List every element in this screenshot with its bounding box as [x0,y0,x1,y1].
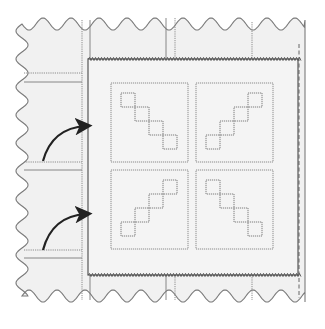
quilt-diagram [0,0,325,329]
block-border [88,59,298,275]
quilt-block [88,57,301,276]
diagram-canvas [0,0,325,329]
